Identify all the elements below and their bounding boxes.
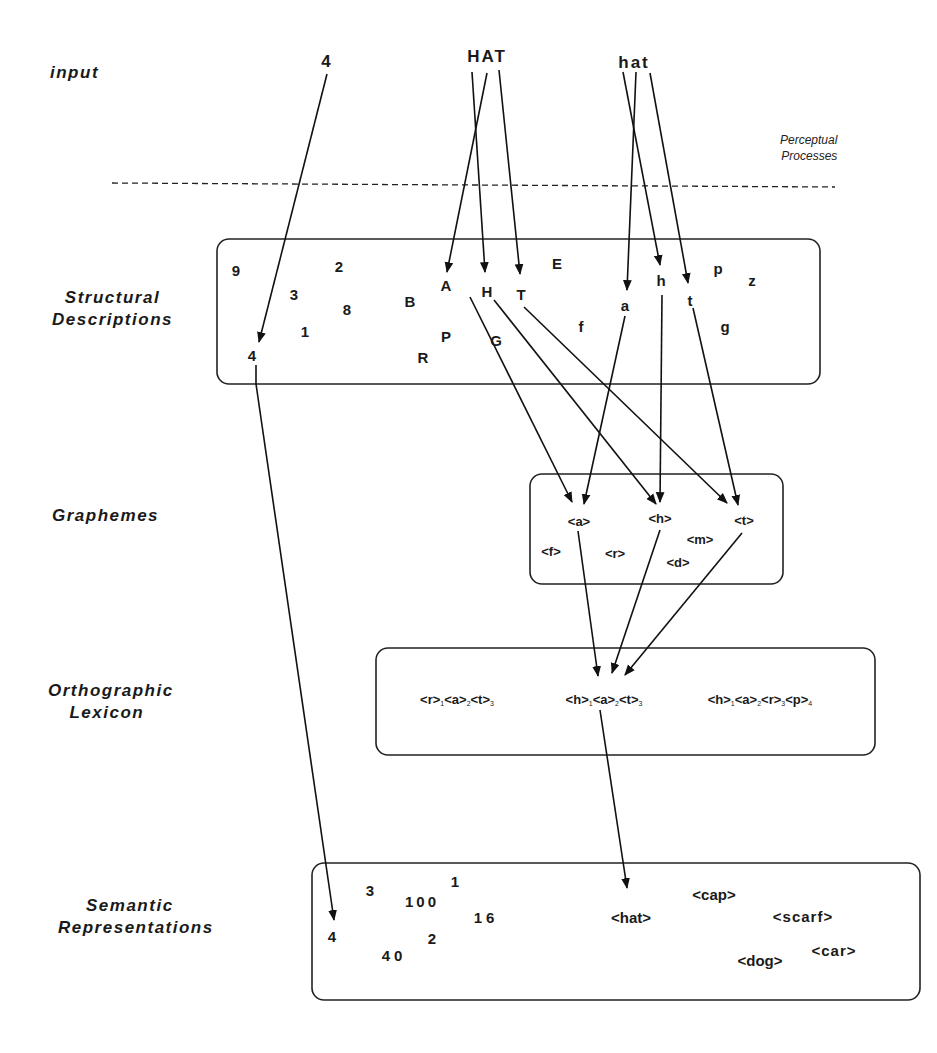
- ortho-word-harp: <h>1<a>2<r>3<p>4: [708, 692, 813, 707]
- struct-h: h: [656, 272, 665, 289]
- grapheme-m: <m>: [687, 532, 714, 547]
- input-digit-4: 4: [321, 52, 332, 72]
- semantic-cap: <cap>: [692, 886, 735, 903]
- input-lowercase-hat: hat: [618, 53, 650, 73]
- level-label-orthographic: OrthographicLexicon: [48, 680, 174, 724]
- struct-f: f: [579, 318, 584, 335]
- struct-A: A: [441, 277, 452, 294]
- struct-P: P: [441, 328, 451, 345]
- struct-G: G: [490, 332, 502, 349]
- semantic-dog: <dog>: [737, 952, 782, 969]
- semantic-16: 16: [474, 909, 499, 926]
- semantic-car: <car>: [811, 942, 856, 959]
- struct-9: 9: [232, 262, 240, 279]
- ortho-word-rat: <r>1<a>2<t>3: [420, 692, 494, 707]
- grapheme-r: <r>: [605, 546, 625, 561]
- struct-3: 3: [290, 286, 298, 303]
- struct-a: a: [621, 297, 629, 314]
- struct-H: H: [482, 283, 493, 300]
- struct-z: z: [748, 272, 756, 289]
- grapheme-h: <h>: [648, 511, 671, 526]
- struct-R: R: [418, 349, 429, 366]
- box-graphemes: [530, 474, 783, 584]
- level-label-semantic: SemanticRepresentations: [58, 895, 214, 939]
- semantic-scarf: <scarf>: [773, 908, 833, 925]
- semantic-4: 4: [328, 928, 336, 945]
- struct-g: g: [720, 318, 729, 335]
- level-label-input: input: [50, 62, 99, 84]
- grapheme-d: <d>: [666, 555, 689, 570]
- ortho-word-hat: <h>1<a>2<t>3: [566, 692, 643, 707]
- reading-model-diagram: input StructuralDescriptions Graphemes O…: [0, 0, 937, 1053]
- input-uppercase-hat: HAT: [467, 47, 507, 67]
- semantic-2: 2: [428, 930, 436, 947]
- grapheme-a: <a>: [568, 514, 590, 529]
- semantic-1: 1: [451, 873, 459, 890]
- struct-2: 2: [335, 258, 343, 275]
- struct-8: 8: [343, 301, 351, 318]
- struct-4: 4: [248, 347, 256, 364]
- grapheme-f: <f>: [541, 544, 561, 559]
- struct-B: B: [405, 293, 416, 310]
- level-label-graphemes: Graphemes: [52, 505, 159, 527]
- level-label-structural: StructuralDescriptions: [52, 287, 173, 331]
- semantic-3: 3: [366, 882, 374, 899]
- struct-E: E: [552, 255, 562, 272]
- perceptual-processes-note: PerceptualProcesses: [780, 132, 837, 164]
- grapheme-t: <t>: [734, 513, 754, 528]
- struct-p: p: [713, 260, 722, 277]
- perceptual-boundary: [112, 183, 835, 187]
- semantic-40: 40: [382, 947, 407, 964]
- box-semantic: [312, 863, 920, 1000]
- struct-1: 1: [301, 323, 309, 340]
- struct-T: T: [516, 286, 525, 303]
- semantic-hat: <hat>: [611, 909, 651, 926]
- struct-t: t: [688, 292, 693, 309]
- semantic-100: 100: [405, 893, 439, 910]
